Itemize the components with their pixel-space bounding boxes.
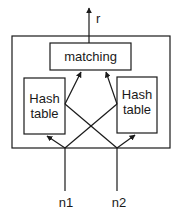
right-hash-label-1: Hash [122, 87, 152, 102]
input-label-n2: n2 [112, 195, 126, 210]
n2-build-arrow [117, 135, 135, 148]
n1-build-arrow [47, 136, 65, 148]
left-probe-arrow [65, 72, 81, 104]
left-hash-label-2: table [30, 106, 58, 121]
matching-label: matching [64, 49, 117, 64]
hash-join-diagram: r matching Hash table Hash table n1 n2 [0, 0, 177, 212]
right-probe-arrow [106, 72, 117, 104]
input-label-n1: n1 [59, 195, 73, 210]
right-hash-label-2: table [123, 102, 151, 117]
left-hash-label-1: Hash [29, 91, 59, 106]
output-label: r [96, 11, 101, 26]
